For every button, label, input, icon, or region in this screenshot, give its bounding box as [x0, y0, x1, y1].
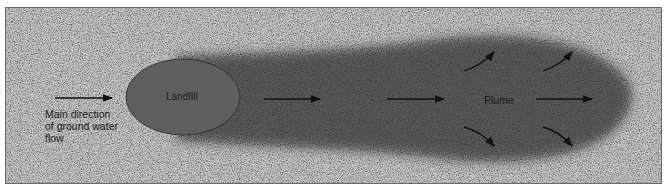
flow-label-line-2: of ground water [45, 120, 155, 132]
plume-label: Plume [484, 94, 514, 106]
flow-label-line-1: Main direction [45, 108, 155, 120]
plume-diagram-graphic [6, 8, 661, 183]
landfill-label: Landfill [166, 91, 198, 103]
diagram-panel: Main direction of ground water flow Land… [5, 7, 662, 184]
groundwater-flow-label: Main direction of ground water flow [45, 108, 155, 144]
flow-label-line-3: flow [45, 132, 155, 144]
